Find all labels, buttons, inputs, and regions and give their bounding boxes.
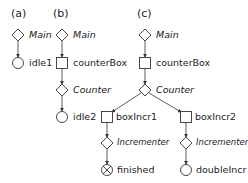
node-incrementer-left: Incrementer	[117, 138, 169, 147]
node-main-a: Main	[29, 30, 52, 40]
diamond-icon	[56, 29, 68, 41]
node-doubleincr: doubleIncr	[196, 165, 246, 175]
diamond-icon	[180, 137, 192, 149]
circle-icon	[13, 58, 24, 69]
panel-c-label: (c)	[137, 8, 152, 19]
diamond-icon	[139, 29, 151, 41]
node-main-b: Main	[73, 30, 96, 40]
panel-a-label: (a)	[11, 8, 26, 19]
node-idle2: idle2	[73, 112, 96, 122]
square-icon	[102, 112, 113, 123]
diamond-icon	[12, 29, 24, 41]
circle-icon	[57, 112, 68, 123]
node-idle1: idle1	[29, 58, 52, 68]
node-incrementer-right: Incrementer	[196, 138, 248, 147]
node-counter-c: Counter	[156, 85, 194, 95]
square-icon	[140, 58, 151, 69]
node-counterbox-c: counterBox	[156, 58, 210, 68]
square-icon	[181, 112, 192, 123]
square-icon	[57, 58, 68, 69]
node-counterbox-b: counterBox	[73, 58, 127, 68]
circle-icon	[181, 165, 192, 176]
node-finished: finished	[117, 165, 155, 175]
diamond-icon	[56, 84, 68, 96]
node-boxincr2: boxIncr2	[195, 112, 236, 122]
diamond-icon	[139, 84, 151, 96]
panel-b-label: (b)	[53, 8, 69, 19]
diamond-icon	[101, 137, 113, 149]
node-main-c: Main	[156, 30, 179, 40]
node-boxincr1: boxIncr1	[116, 112, 157, 122]
node-counter-b: Counter	[73, 85, 111, 95]
diagram-canvas	[0, 0, 248, 183]
